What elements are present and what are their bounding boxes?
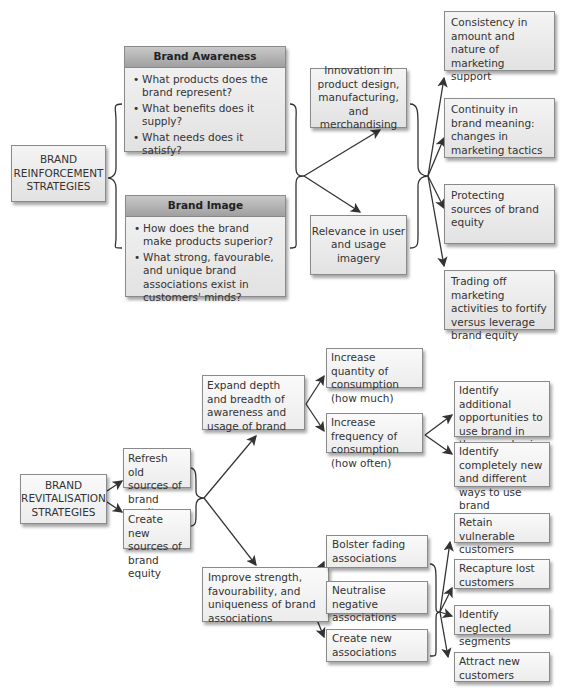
- refresh-sources-box: Refresh old sources of brand equity: [123, 448, 191, 488]
- create-sources-box: Create new sources of brand equity: [123, 509, 191, 549]
- awareness-item: What products does the brand represent?: [133, 73, 279, 100]
- reinforcement-root: BRAND REINFORCEMENT STRATEGIES: [11, 145, 106, 202]
- bolster-box: Bolster fading associations: [326, 535, 428, 568]
- image-item: How does the brand make products superio…: [134, 222, 279, 249]
- improve-box: Improve strength, favourability, and uni…: [202, 567, 329, 622]
- brand-awareness-box: Brand Awareness What products does the b…: [124, 46, 286, 152]
- brand-image-box: Brand Image How does the brand make prod…: [125, 195, 286, 297]
- recapture-box: Recapture lost customers: [454, 559, 550, 589]
- neutralise-box: Neutralise negative associations: [326, 581, 428, 614]
- innovation-box: Innovation in product design, manufactur…: [310, 68, 407, 128]
- awareness-item: What needs does it satisfy?: [133, 131, 279, 158]
- additional-opportunities-box: Identify additional opportunities to use…: [454, 381, 550, 437]
- quantity-box: Increase quantity of consumption (how mu…: [326, 348, 423, 388]
- revitalisation-root: BRAND REVITALISATION STRATEGIES: [20, 474, 107, 524]
- retain-box: Retain vulnerable customers: [454, 513, 550, 543]
- attract-box: Attract new customers: [454, 652, 550, 682]
- brand-image-title: Brand Image: [126, 196, 285, 217]
- brand-awareness-title: Brand Awareness: [125, 47, 285, 68]
- outcome-protecting: Protecting sources of brand equity: [444, 184, 555, 244]
- new-ways-box: Identify completely new and different wa…: [454, 442, 550, 487]
- frequency-box: Increase frequency of consumption (how o…: [326, 413, 423, 453]
- outcome-trading-off: Trading off marketing activities to fort…: [444, 270, 555, 330]
- image-item: What strong, favourable, and unique bran…: [134, 251, 279, 305]
- neglected-box: Identify neglected segments: [454, 605, 550, 635]
- outcome-consistency: Consistency in amount and nature of mark…: [444, 11, 555, 71]
- create-associations-box: Create new associations: [326, 629, 428, 662]
- awareness-item: What benefits does it supply?: [133, 102, 279, 129]
- expand-box: Expand depth and breadth of awareness an…: [202, 375, 305, 430]
- relevance-box: Relevance in user and usage imagery: [310, 215, 407, 275]
- outcome-continuity: Continuity in brand meaning: changes in …: [444, 98, 555, 158]
